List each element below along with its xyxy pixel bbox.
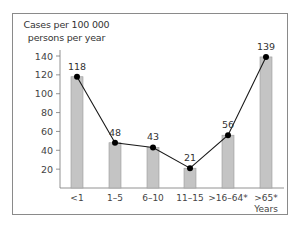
data-point-marker [225, 132, 231, 138]
value-label: 43 [147, 131, 159, 142]
data-point-marker [150, 144, 156, 150]
bar [109, 143, 121, 188]
y-tick-label: 60 [41, 126, 53, 137]
data-point-marker [187, 165, 193, 171]
trend-line [77, 57, 266, 168]
x-category-label: >65* [254, 193, 278, 203]
x-category-label: 11–15 [176, 193, 203, 203]
data-point-marker [74, 74, 80, 80]
bar [260, 57, 272, 188]
bar [147, 147, 159, 188]
bar [71, 77, 83, 188]
value-label: 48 [109, 127, 121, 138]
y-tick-label: 80 [41, 107, 53, 118]
chart-plot: 2040608010012014011848432156139<11–56–10… [0, 0, 299, 225]
y-tick-label: 120 [35, 69, 53, 80]
data-point-marker [263, 54, 269, 60]
value-label: 21 [184, 152, 196, 163]
x-category-label: 6–10 [142, 193, 164, 203]
x-axis-title: Years [253, 204, 278, 214]
bar [222, 135, 234, 188]
y-tick-label: 140 [35, 51, 53, 62]
y-tick-label: 40 [41, 145, 53, 156]
data-point-marker [112, 140, 118, 146]
value-label: 139 [257, 41, 275, 52]
value-label: 56 [222, 119, 234, 130]
y-tick-label: 20 [41, 164, 53, 175]
x-category-label: <1 [70, 193, 83, 203]
value-label: 118 [68, 61, 86, 72]
x-category-label: 1–5 [107, 193, 123, 203]
y-tick-label: 100 [35, 88, 53, 99]
x-category-label: >16–64* [208, 193, 248, 203]
